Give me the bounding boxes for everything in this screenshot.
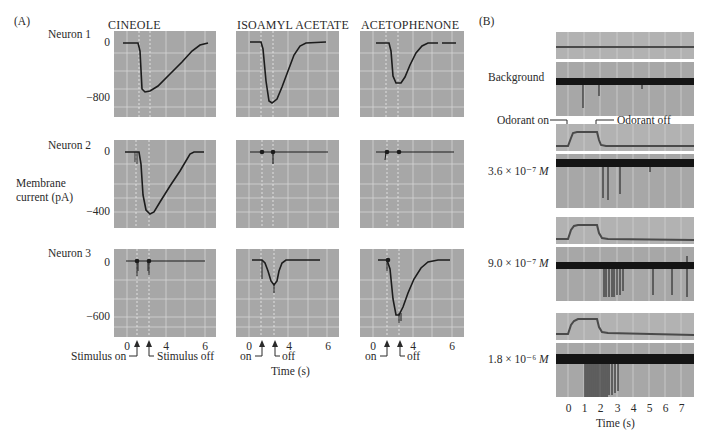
plot-neuron1-acetophenone (360, 31, 464, 117)
b-spike-trace-1-8e-6 (556, 343, 694, 397)
b-odorant-strip-9-0e-7 (556, 217, 694, 244)
b-odorant-strip-3-6e-7 (556, 124, 694, 151)
b-odorant-trace-3-6e-7 (556, 124, 694, 151)
y-tick-n3-zero: 0 (80, 257, 110, 269)
y-tick-n1-min: −800 (80, 92, 110, 104)
conc-label-9-0e-7-unit: M (539, 257, 549, 269)
x-axis-label-panel-a: Time (s) (271, 366, 310, 378)
b-odorant-trace-1-8e-6 (556, 313, 694, 340)
y-axis-label-line2: current (pA) (16, 192, 73, 204)
panel-a-label: (A) (14, 16, 30, 28)
b-spike-trace-3-6e-7 (556, 154, 694, 208)
odorant-on-label: Odorant on (497, 115, 549, 127)
trace-neuron1-cineole (114, 31, 216, 117)
stimulus-on-short-col2: on (240, 351, 252, 363)
b-x-tick-5: 5 (645, 403, 654, 415)
b-spike-strip-1-8e-6 (556, 343, 694, 397)
conc-label-1-8e-6-value: 1.8 × 10⁻⁶ (488, 353, 539, 365)
y-tick-n2-min: −400 (80, 206, 110, 218)
stimulus-off-short-col2: off (282, 351, 295, 363)
x-tick-6-col3: 6 (446, 341, 458, 353)
conc-label-9-0e-7-value: 9.0 × 10⁻⁷ (488, 257, 539, 269)
trace-neuron1-acetophenone (360, 31, 464, 117)
b-odorant-strip-background (556, 32, 694, 59)
conc-label-3-6e-7-value: 3.6 × 10⁻⁷ (488, 165, 539, 177)
b-odorant-strip-1-8e-6 (556, 313, 694, 340)
b-spike-strip-3-6e-7 (556, 154, 694, 208)
b-x-tick-4: 4 (629, 403, 638, 415)
b-x-tick-2: 2 (596, 403, 605, 415)
stimulus-off-label: Stimulus off (157, 351, 214, 363)
conc-label-1-8e-6: 1.8 × 10⁻⁶ M (488, 354, 549, 366)
conc-label-3-6e-7-unit: M (539, 165, 549, 177)
plot-neuron2-isoamyl-acetate (236, 140, 339, 228)
trace-neuron3-acetophenone (360, 249, 464, 337)
plot-neuron2-acetophenone (360, 140, 464, 228)
b-odorant-trace-9-0e-7 (556, 217, 694, 244)
plot-neuron2-cineole (114, 140, 216, 228)
b-spike-trace-background (556, 62, 694, 116)
conc-label-9-0e-7: 9.0 × 10⁻⁷ M (488, 258, 549, 270)
stimulus-on-label: Stimulus on (71, 351, 126, 363)
plot-neuron1-cineole (114, 31, 216, 117)
y-axis-label-line1: Membrane (16, 178, 66, 190)
b-x-tick-0: 0 (564, 403, 573, 415)
b-x-tick-6: 6 (661, 403, 670, 415)
plot-neuron3-acetophenone (360, 249, 464, 337)
trace-neuron3-cineole (114, 249, 216, 337)
b-spike-strip-background (556, 62, 694, 116)
x-tick-6-col2: 6 (322, 341, 334, 353)
b-spike-trace-9-0e-7 (556, 247, 694, 301)
trace-neuron3-isoamyl-acetate (236, 249, 339, 337)
stimulus-off-short-col3: off (407, 351, 420, 363)
conc-label-background-text: Background (488, 71, 544, 83)
y-tick-n3-min: −600 (80, 311, 110, 323)
trace-neuron2-acetophenone (360, 140, 464, 228)
y-tick-n2-zero: 0 (80, 146, 110, 158)
y-tick-n1-zero: 0 (80, 37, 110, 49)
plot-neuron1-isoamyl-acetate (236, 31, 339, 117)
stimulus-arrows-col2 (240, 338, 320, 364)
conc-label-background: Background (488, 72, 544, 84)
stimulus-on-short-col3: on (365, 351, 377, 363)
b-x-tick-3: 3 (613, 403, 622, 415)
b-spike-strip-9-0e-7 (556, 247, 694, 301)
x-axis-label-panel-b: Time (s) (596, 418, 635, 430)
conc-label-1-8e-6-unit: M (539, 353, 549, 365)
trace-neuron1-isoamyl-acetate (236, 31, 339, 117)
trace-neuron2-isoamyl-acetate (236, 140, 339, 228)
conc-label-3-6e-7: 3.6 × 10⁻⁷ M (488, 166, 549, 178)
panel-b-label: (B) (479, 16, 494, 28)
plot-neuron3-isoamyl-acetate (236, 249, 339, 337)
b-x-tick-7: 7 (677, 403, 686, 415)
plot-neuron3-cineole (114, 249, 216, 337)
b-x-tick-1: 1 (580, 403, 589, 415)
b-odorant-trace-background (556, 32, 694, 59)
trace-neuron2-cineole (114, 140, 216, 228)
